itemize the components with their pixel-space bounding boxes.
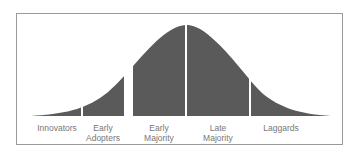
- segment-innovators: [31, 20, 81, 117]
- segment-early-majority: [133, 20, 185, 117]
- segment-late-majority: [187, 20, 249, 117]
- label-late-majority: Late Majority: [203, 123, 233, 143]
- label-early-majority: Early Majority: [144, 123, 174, 143]
- label-laggards: Laggards: [263, 123, 298, 133]
- label-innovators: Innovators: [37, 123, 77, 133]
- segment-laggards: [251, 20, 331, 117]
- label-early-adopters: Early Adopters: [86, 123, 120, 143]
- segment-early-adopters: [83, 20, 124, 117]
